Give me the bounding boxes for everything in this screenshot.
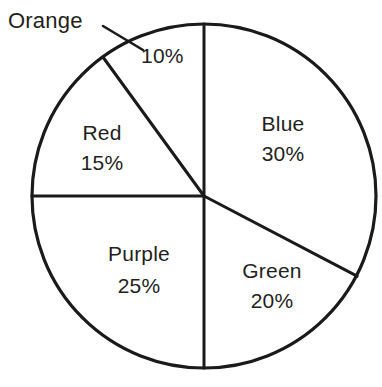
slice-label-green-name: Green	[242, 259, 301, 282]
slice-label-red-value: 15%	[81, 151, 124, 174]
slice-label-blue-name: Blue	[262, 112, 305, 135]
slice-label-green-value: 20%	[251, 289, 294, 312]
pie-chart-figure: Blue 30% Green 20% Purple 25% Red 15% 10…	[0, 0, 382, 387]
pie-chart-svg: Blue 30% Green 20% Purple 25% Red 15% 10…	[0, 0, 382, 387]
slice-label-orange-value: 10%	[141, 44, 184, 67]
slice-label-orange-name: Orange	[8, 8, 83, 33]
slice-label-purple-name: Purple	[108, 242, 170, 265]
slice-label-red-name: Red	[82, 121, 121, 144]
slice-label-blue-value: 30%	[262, 142, 305, 165]
slice-label-purple-value: 25%	[118, 274, 161, 297]
